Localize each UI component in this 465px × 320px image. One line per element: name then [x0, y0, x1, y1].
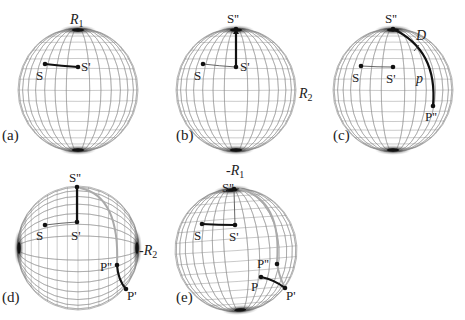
point-label-P-double-prime: P'': [100, 259, 112, 274]
sphere-c: [333, 25, 453, 155]
panel-b: SS'S''R2(b): [176, 11, 313, 155]
point-label-P-prime: P': [127, 288, 137, 303]
point-label-S-prime: S': [71, 228, 81, 243]
point-S-prime: [75, 220, 80, 225]
axis-label-D: D: [415, 28, 426, 43]
panel-label-b: (b): [176, 127, 194, 144]
point-S-double-prime: [391, 27, 396, 32]
figure-canvas: SS'R1(a)SS'S''R2(b)SS'S''P''Dp(c)SS'S''P…: [0, 0, 465, 320]
point-S-prime: [233, 223, 238, 228]
point-label-S-double-prime: S'': [227, 11, 239, 26]
point-label-S: S: [194, 228, 201, 243]
panel-label-a: (a): [2, 127, 19, 144]
point-label-S-prime: S': [229, 229, 239, 244]
axis-label-neg-R1: -R1: [226, 163, 244, 180]
panel-label-d: (d): [2, 289, 20, 306]
pole-marker: [72, 148, 84, 151]
point-label-S-double-prime: S'': [222, 180, 234, 195]
sphere-a: [18, 25, 138, 155]
panel-c: SS'S''P''Dp(c): [333, 11, 453, 155]
panel-a: SS'R1(a): [2, 12, 138, 155]
axis-label-R2: R2: [298, 86, 313, 103]
point-label-P-prime: P': [286, 288, 296, 303]
path-thick: [202, 224, 235, 225]
panel-label-e: (e): [176, 289, 193, 306]
axis-label-R1: R1: [69, 12, 84, 29]
point-S: [200, 222, 205, 227]
point-label-P-double-prime: P'': [425, 109, 437, 124]
point-S-prime: [76, 65, 81, 70]
point-label-P: P: [251, 279, 258, 294]
point-label-P-double-prime: P'': [257, 256, 269, 271]
point-S: [201, 62, 206, 67]
point-label-S: S: [36, 68, 43, 83]
pole-marker: [387, 148, 399, 151]
point-S-prime: [391, 65, 396, 70]
point-S: [359, 64, 364, 69]
panel-d: SS'S''P''P'-R2(d): [2, 170, 157, 310]
panels-layer: SS'R1(a)SS'S''R2(b)SS'S''P''Dp(c)SS'S''P…: [2, 11, 453, 319]
panel-label-c: (c): [333, 127, 350, 144]
point-P-double-prime: [431, 104, 436, 109]
axis-label-neg-R2: -R2: [139, 243, 157, 260]
point-S-double-prime: [234, 27, 239, 32]
pole-marker: [17, 242, 20, 254]
point-P-double-prime: [275, 262, 280, 267]
point-label-S-prime: S': [240, 59, 250, 74]
point-label-S-double-prime: S'': [385, 11, 397, 26]
point-S: [43, 62, 48, 67]
point-S-prime: [234, 65, 239, 70]
panel-e: SS'S''P''PP'-R1(e): [171, 163, 302, 319]
axis-label-p: p: [415, 71, 423, 86]
point-S: [43, 223, 48, 228]
point-label-S-double-prime: S'': [69, 170, 81, 185]
point-S-double-prime: [75, 185, 80, 190]
point-P-double-prime: [115, 263, 120, 268]
point-label-S-prime: S': [386, 71, 396, 86]
point-label-S-prime: S': [81, 59, 91, 74]
point-label-S: S: [194, 68, 201, 83]
point-P: [259, 275, 264, 280]
point-label-S: S: [36, 228, 43, 243]
pole-marker: [230, 148, 242, 151]
point-label-S: S: [352, 70, 359, 85]
